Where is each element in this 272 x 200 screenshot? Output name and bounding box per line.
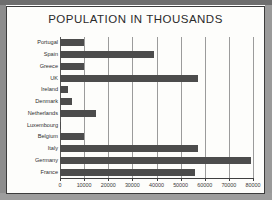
x-tick-70000 bbox=[229, 178, 230, 181]
x-tick-0 bbox=[60, 178, 61, 181]
category-label: Germany bbox=[35, 157, 58, 163]
category-label: Belgium bbox=[38, 133, 58, 139]
bar bbox=[60, 98, 72, 105]
x-tick-80000 bbox=[253, 178, 254, 181]
plot-area bbox=[60, 37, 253, 178]
category-axis-labels: PortugalSpainGreeceUKIrelandDenmarkNethe… bbox=[11, 37, 58, 178]
bar bbox=[60, 63, 84, 70]
category-label: Portugal bbox=[37, 39, 58, 45]
bar bbox=[60, 110, 96, 117]
x-tick-label-40000: 40000 bbox=[149, 182, 164, 188]
bar bbox=[60, 157, 251, 164]
x-tick-label-60000: 60000 bbox=[197, 182, 212, 188]
category-label: Denmark bbox=[35, 98, 58, 104]
scan-edge-bottom bbox=[0, 193, 272, 200]
x-tick-60000 bbox=[205, 178, 206, 181]
bar bbox=[60, 75, 198, 82]
gridline-80000 bbox=[253, 37, 254, 178]
category-label: Greece bbox=[40, 63, 58, 69]
x-tick-30000 bbox=[132, 178, 133, 181]
chart-page: POPULATION IN THOUSANDS PortugalSpainGre… bbox=[6, 6, 265, 194]
x-tick-label-20000: 20000 bbox=[101, 182, 116, 188]
scan-edge-right bbox=[265, 5, 272, 200]
bar bbox=[60, 145, 198, 152]
category-label: Netherlands bbox=[28, 110, 58, 116]
bar bbox=[60, 133, 84, 140]
category-label: Italy bbox=[48, 145, 58, 151]
chart-title: POPULATION IN THOUSANDS bbox=[7, 13, 264, 25]
bar bbox=[60, 122, 61, 129]
bar bbox=[60, 39, 84, 46]
category-label: Ireland bbox=[41, 86, 58, 92]
category-label: France bbox=[41, 169, 58, 175]
x-tick-20000 bbox=[108, 178, 109, 181]
category-label: Spain bbox=[44, 51, 58, 57]
x-tick-40000 bbox=[157, 178, 158, 181]
x-tick-50000 bbox=[181, 178, 182, 181]
x-tick-label-30000: 30000 bbox=[125, 182, 140, 188]
category-label: Luxembourg bbox=[27, 122, 58, 128]
x-tick-10000 bbox=[84, 178, 85, 181]
scan-edge-top bbox=[0, 0, 272, 5]
x-tick-label-70000: 70000 bbox=[221, 182, 236, 188]
x-tick-label-0: 0 bbox=[59, 182, 62, 188]
bar bbox=[60, 169, 195, 176]
scanned-page-background: POPULATION IN THOUSANDS PortugalSpainGre… bbox=[0, 0, 272, 200]
category-label: UK bbox=[50, 75, 58, 81]
bar bbox=[60, 86, 68, 93]
x-tick-label-10000: 10000 bbox=[77, 182, 92, 188]
x-tick-label-80000: 80000 bbox=[246, 182, 261, 188]
bar bbox=[60, 51, 154, 58]
x-tick-label-50000: 50000 bbox=[173, 182, 188, 188]
